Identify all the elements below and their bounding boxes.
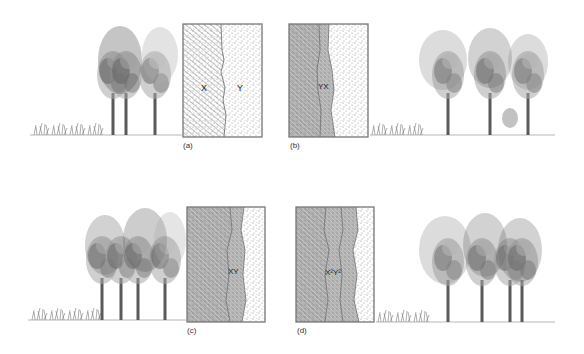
- panel-a-vegetation: [30, 26, 182, 135]
- zone-y-label: Y: [237, 83, 243, 93]
- panel-a-caption: (a): [183, 141, 193, 150]
- panel-b: YX: [289, 24, 368, 137]
- panel-a: X Y: [183, 24, 262, 137]
- panel-c-vegetation: [28, 208, 186, 320]
- panel-d-vegetation: [376, 213, 555, 322]
- ecotone-yx-label: YX: [318, 82, 329, 91]
- ecotone-diagram: X Y YX: [0, 0, 584, 354]
- panel-b-caption: (b): [290, 141, 300, 150]
- ecotone-x2y2-label: X²Y²: [325, 268, 341, 277]
- panel-d: X²Y²: [296, 207, 374, 322]
- panel-c: XY: [187, 207, 265, 322]
- panel-d-caption: (d): [297, 326, 307, 335]
- panel-b-vegetation: [370, 28, 555, 135]
- ecotone-xy-label: XY: [228, 267, 239, 276]
- zone-x-label: X: [201, 83, 207, 93]
- panel-c-caption: (c): [187, 326, 196, 335]
